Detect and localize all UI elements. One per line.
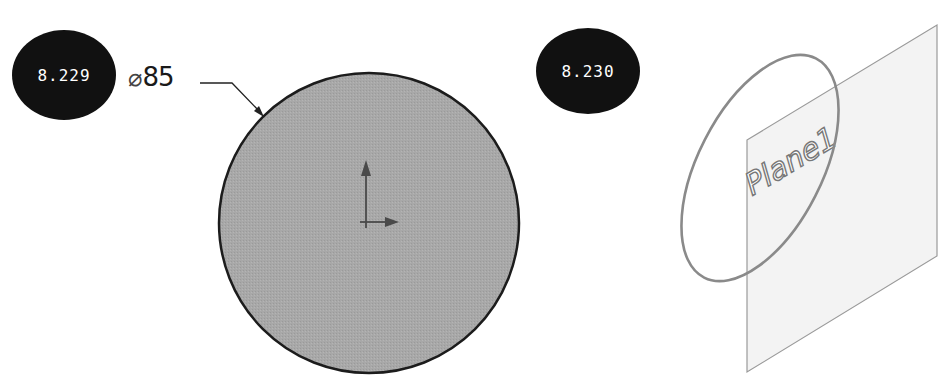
drawing-canvas: Plane1 (0, 0, 947, 389)
plane1-surface[interactable] (747, 25, 937, 372)
figure-badge-8-230: 8.230 (536, 28, 640, 114)
figure-number: 8.230 (561, 62, 614, 81)
sketch-circle[interactable] (219, 73, 519, 373)
dimension-leader (200, 83, 264, 117)
